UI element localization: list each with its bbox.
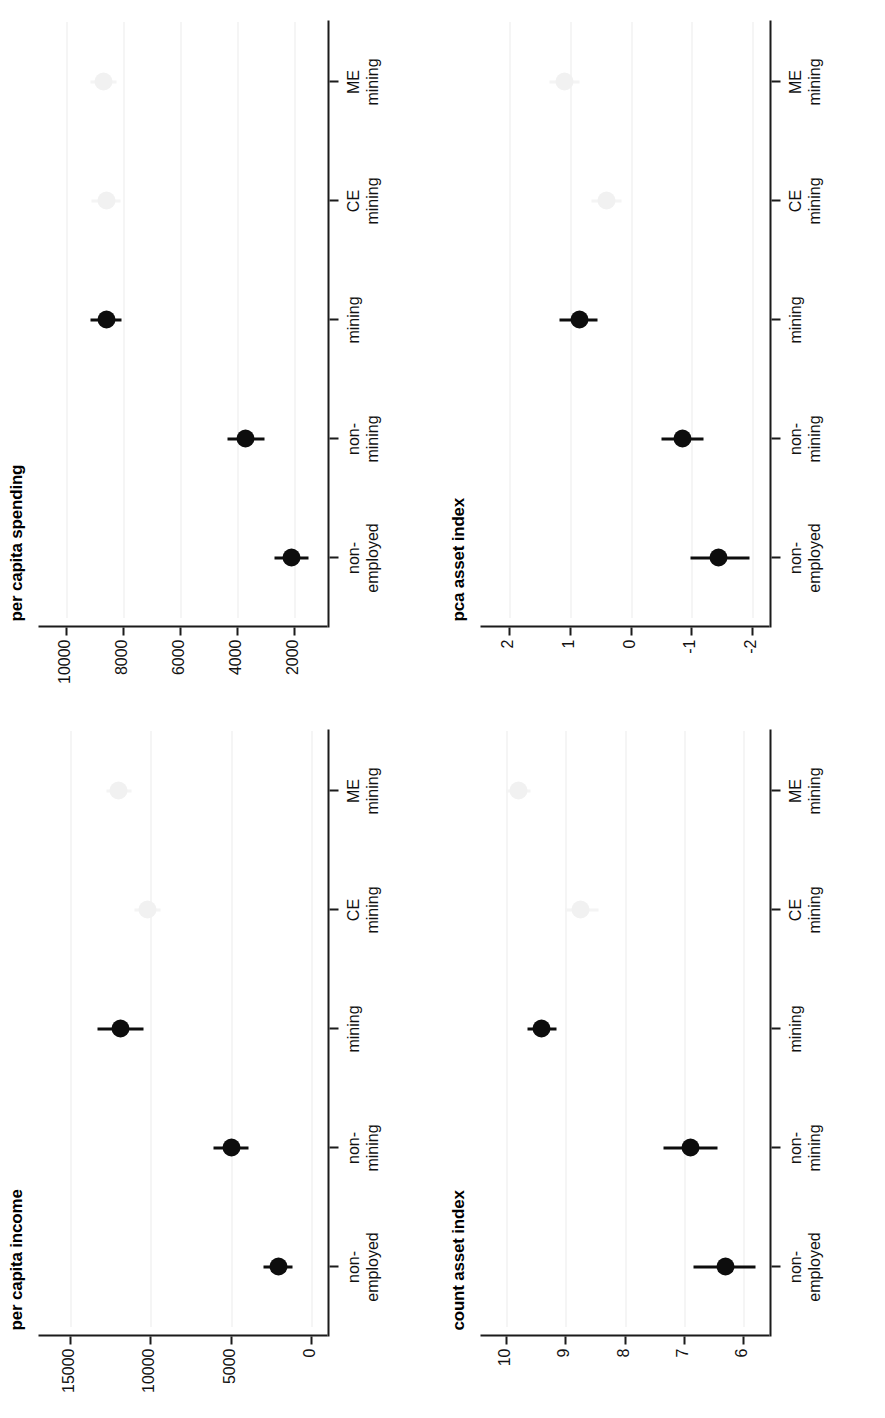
value-tick-1	[564, 1336, 566, 1344]
panel-title: pca asset index	[448, 497, 468, 621]
plot-count-asset-index: count asset index109876non-employednon-m…	[442, 709, 885, 1418]
value-tick-label: 9	[554, 1348, 572, 1418]
value-tick-label: 6000	[169, 639, 187, 713]
category-tick-3	[329, 909, 338, 911]
gridline-4	[752, 22, 753, 617]
value-tick-4	[293, 627, 295, 635]
category-label-line2: mining	[362, 12, 381, 152]
category-axis-line	[327, 20, 329, 627]
data-point	[94, 73, 112, 91]
category-label-4: MEmining	[343, 12, 381, 152]
value-tick-1	[569, 627, 571, 635]
value-tick-4	[751, 627, 753, 635]
value-tick-label: 0	[620, 639, 638, 713]
category-tick-4	[329, 790, 338, 792]
value-tick-3	[236, 627, 238, 635]
value-tick-3	[310, 1336, 312, 1344]
category-tick-1	[329, 438, 338, 440]
gridline-4	[294, 22, 295, 617]
data-point	[673, 430, 691, 448]
data-point	[111, 1020, 129, 1038]
gridline-4	[743, 731, 744, 1326]
category-axis-line	[769, 729, 771, 1336]
category-label-line2: mining	[804, 721, 823, 861]
data-point	[222, 1139, 240, 1157]
gridline-3	[691, 22, 692, 617]
data-point	[509, 782, 527, 800]
value-tick-0	[69, 1336, 71, 1344]
plot-pca-asset-index: pca asset index210-1-2non-employednon-mi…	[442, 0, 885, 709]
category-label-line1: ME	[785, 721, 804, 861]
value-tick-2	[230, 1336, 232, 1344]
category-label-line1: ME	[343, 12, 362, 152]
category-tick-0	[771, 1266, 780, 1268]
gridline-1	[565, 731, 566, 1326]
category-tick-3	[771, 909, 780, 911]
data-point	[681, 1139, 699, 1157]
gridline-0	[66, 22, 67, 617]
panel-title: count asset index	[448, 1190, 468, 1330]
category-tick-0	[329, 557, 338, 559]
chart-panel-count-asset-index: count asset index109876non-employednon-m…	[442, 709, 885, 1418]
data-point	[236, 430, 254, 448]
value-tick-label: 15000	[59, 1348, 77, 1418]
category-axis-line	[327, 729, 329, 1336]
value-tick-1	[122, 627, 124, 635]
value-tick-label: 0	[300, 1348, 318, 1418]
gridline-3	[311, 731, 312, 1326]
data-point	[138, 901, 156, 919]
value-tick-label: 10	[495, 1348, 513, 1418]
value-tick-label: 1	[559, 639, 577, 713]
category-label-line2: mining	[362, 369, 381, 509]
chart-panel-pca-asset-index: pca asset index210-1-2non-employednon-mi…	[442, 0, 885, 709]
category-label-line2: mining	[804, 369, 823, 509]
category-label-4: MEmining	[785, 721, 823, 861]
value-tick-2	[624, 1336, 626, 1344]
category-label-line2: mining	[804, 1078, 823, 1218]
data-point	[282, 549, 300, 567]
gridline-3	[684, 731, 685, 1326]
category-tick-2	[329, 319, 338, 321]
plot-area	[482, 731, 767, 1326]
value-tick-label: 7	[673, 1348, 691, 1418]
plot-area	[40, 22, 325, 617]
value-tick-3	[690, 627, 692, 635]
data-point	[570, 311, 588, 329]
gridline-2	[631, 22, 632, 617]
value-tick-0	[65, 627, 67, 635]
data-point	[532, 1020, 550, 1038]
category-tick-1	[329, 1147, 338, 1149]
category-tick-4	[771, 81, 780, 83]
category-label-line2: mining	[362, 721, 381, 861]
category-tick-3	[329, 200, 338, 202]
plot-per-capita-income: per capita income150001000050000non-empl…	[0, 709, 443, 1418]
rotation-wrapper: per capita income150001000050000non-empl…	[0, 709, 443, 1418]
rotation-wrapper: count asset index109876non-employednon-m…	[442, 709, 885, 1418]
value-tick-label: 2000	[283, 639, 301, 713]
value-tick-0	[505, 1336, 507, 1344]
figure-root: per capita spending100008000600040002000…	[0, 0, 885, 1418]
data-point	[269, 1258, 287, 1276]
gridline-3	[237, 22, 238, 617]
gridline-0	[506, 731, 507, 1326]
rotation-wrapper: pca asset index210-1-2non-employednon-mi…	[442, 0, 885, 709]
category-tick-1	[771, 438, 780, 440]
value-tick-label: 10000	[55, 639, 73, 713]
category-label-line2: mining	[804, 12, 823, 152]
data-point	[555, 73, 573, 91]
plot-area	[40, 731, 325, 1326]
value-tick-0	[508, 627, 510, 635]
gridline-2	[231, 731, 232, 1326]
category-label-4: MEmining	[785, 12, 823, 152]
value-tick-4	[742, 1336, 744, 1344]
category-tick-0	[771, 557, 780, 559]
value-axis-line	[480, 625, 769, 627]
chart-panel-per-capita-income: per capita income150001000050000non-empl…	[0, 709, 443, 1418]
data-point	[597, 192, 615, 210]
data-point	[709, 549, 727, 567]
category-label-4: MEmining	[343, 721, 381, 861]
rotation-wrapper: per capita spending100008000600040002000…	[0, 0, 443, 709]
category-tick-1	[771, 1147, 780, 1149]
value-tick-label: -1	[680, 639, 698, 713]
value-tick-label: 10000	[139, 1348, 157, 1418]
